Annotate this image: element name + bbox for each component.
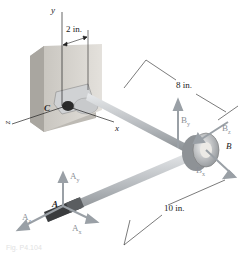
- point-label-b: B: [226, 142, 232, 151]
- dimension-label-10in: 10 in.: [164, 204, 185, 213]
- dimension-label-2in: 2 in.: [66, 25, 82, 34]
- point-label-c: C: [44, 104, 50, 113]
- force-label-bz: Bz: [222, 124, 231, 135]
- force-label-ax: Ax: [72, 224, 82, 235]
- point-label-a: A: [52, 200, 58, 209]
- wall-bracket: [30, 44, 102, 132]
- force-label-ay: Ay: [70, 172, 80, 183]
- axis-label-y: y: [51, 6, 55, 15]
- axis-label-x: x: [115, 124, 119, 133]
- force-label-by: By: [181, 116, 190, 127]
- force-label-az: Az: [22, 213, 31, 224]
- force-label-bx: Bx: [196, 166, 205, 177]
- mechanism-diagram: [0, 0, 245, 255]
- dimension-label-8in: 8 in.: [176, 81, 192, 90]
- axis-label-z: z: [3, 121, 12, 125]
- figure-caption: Fig. P4.104: [6, 244, 42, 251]
